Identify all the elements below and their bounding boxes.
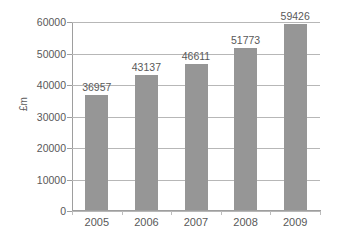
x-axis-category-label: 2005 — [74, 216, 120, 229]
x-axis-tick-mark — [171, 211, 172, 215]
bar[interactable] — [185, 64, 208, 211]
bar[interactable] — [85, 95, 108, 211]
bar-value-label: 46611 — [169, 51, 223, 62]
x-axis-tick-mark — [320, 211, 321, 215]
y-axis-tick-mark — [67, 148, 72, 149]
x-axis-tick-mark — [270, 211, 271, 215]
y-axis-tick-labels: 0100002000030000400005000060000 — [14, 0, 66, 243]
y-axis-tick-label: 10000 — [14, 175, 66, 185]
gridline — [72, 211, 320, 212]
x-axis-line — [72, 210, 321, 211]
x-axis-tick-mark — [72, 211, 73, 215]
x-axis-tick-mark — [221, 211, 222, 215]
x-axis-category-label: 2007 — [173, 216, 219, 229]
bar[interactable] — [234, 48, 257, 211]
y-axis-tick-label: 50000 — [14, 49, 66, 59]
y-axis-tick-mark — [67, 22, 72, 23]
y-axis-tick-label: 40000 — [14, 80, 66, 90]
y-axis-tick-label: 0 — [14, 206, 66, 216]
y-axis-tick-mark — [67, 54, 72, 55]
x-axis-category-label: 2008 — [223, 216, 269, 229]
bar-value-label: 51773 — [219, 35, 273, 46]
y-axis-tick-mark — [67, 180, 72, 181]
x-axis-category-label: 2006 — [123, 216, 169, 229]
y-axis-tick-mark — [67, 117, 72, 118]
x-axis-category-label: 2009 — [272, 216, 318, 229]
y-axis-tick-label: 30000 — [14, 112, 66, 122]
bar[interactable] — [284, 24, 307, 211]
x-axis-tick-mark — [122, 211, 123, 215]
bar[interactable] — [135, 75, 158, 211]
bar-value-label: 59426 — [268, 11, 322, 22]
y-axis-tick-label: 20000 — [14, 143, 66, 153]
bar-value-label: 36957 — [70, 82, 124, 93]
bar-chart: £m 0100002000030000400005000060000 36957… — [0, 0, 337, 243]
bar-value-label: 43137 — [119, 62, 173, 73]
y-axis-tick-label: 60000 — [14, 17, 66, 27]
